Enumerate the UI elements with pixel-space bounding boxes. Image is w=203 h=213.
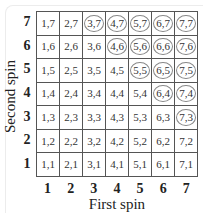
- cell-label: 5,1: [131, 157, 149, 172]
- grid-cell: 5,1: [129, 153, 152, 177]
- grid-cell: 4,1: [106, 153, 129, 177]
- cell-label: 5,5: [130, 62, 150, 79]
- grid-cell: 5,2: [129, 130, 152, 154]
- grid-cell: 6,3: [152, 106, 175, 130]
- grid-cell: 2,4: [60, 83, 83, 107]
- grid-cell: 4,4: [106, 83, 129, 107]
- cell-label: 2,1: [62, 157, 80, 172]
- cell-label: 2,6: [62, 39, 80, 54]
- cell-label: 4,7: [107, 15, 127, 32]
- y-tick-label: 7: [20, 14, 34, 30]
- cell-label: 5,6: [130, 38, 150, 55]
- cell-label: 5,4: [131, 86, 149, 101]
- grid-cell: 1,4: [37, 83, 60, 107]
- cell-label: 3,7: [84, 15, 104, 32]
- cell-label: 1,3: [39, 110, 57, 125]
- grid-cell: 3,6: [83, 36, 106, 60]
- grid-cell: 2,2: [60, 130, 83, 154]
- cell-label: 4,1: [108, 157, 126, 172]
- x-tick-label: 1: [36, 181, 59, 197]
- cell-label: 5,7: [130, 15, 150, 32]
- cell-label: 2,3: [62, 110, 80, 125]
- x-axis-title: First spin: [36, 196, 198, 213]
- cell-label: 1,6: [39, 39, 57, 54]
- y-tick-label: 3: [20, 109, 34, 125]
- grid-cell-circled: 4,7: [106, 12, 129, 36]
- cell-label: 6,1: [154, 157, 172, 172]
- cell-label: 6,2: [154, 134, 172, 149]
- cell-label: 6,7: [153, 15, 173, 32]
- cell-label: 4,5: [108, 63, 126, 78]
- grid-cell: 2,1: [60, 153, 83, 177]
- cell-label: 4,4: [108, 86, 126, 101]
- grid-cell-circled: 6,6: [152, 36, 175, 60]
- grid-cell: 2,3: [60, 106, 83, 130]
- grid-cell: 3,2: [83, 130, 106, 154]
- grid-cell: 2,7: [60, 12, 83, 36]
- grid-cell: 1,3: [37, 106, 60, 130]
- grid-cell: 4,2: [106, 130, 129, 154]
- y-tick-label: 6: [20, 38, 34, 54]
- grid-cell: 3,1: [83, 153, 106, 177]
- grid-cell: 1,2: [37, 130, 60, 154]
- grid-cell: 2,6: [60, 36, 83, 60]
- cell-label: 6,4: [153, 85, 173, 102]
- cell-label: 3,2: [85, 134, 103, 149]
- grid-cell: 1,7: [37, 12, 60, 36]
- grid-cell-circled: 7,4: [175, 83, 198, 107]
- y-tick-label: 1: [20, 156, 34, 172]
- cell-label: 2,5: [62, 63, 80, 78]
- grid-cell: 4,3: [106, 106, 129, 130]
- x-tick-label: 2: [59, 181, 82, 197]
- cell-label: 3,1: [85, 157, 103, 172]
- cell-label: 2,7: [62, 16, 80, 31]
- grid-cell: 6,1: [152, 153, 175, 177]
- grid-cell: 3,5: [83, 59, 106, 83]
- cell-label: 5,3: [131, 110, 149, 125]
- cell-label: 7,6: [176, 38, 196, 55]
- cell-label: 1,4: [39, 86, 57, 101]
- cell-label: 2,4: [62, 86, 80, 101]
- cell-label: 1,2: [39, 134, 57, 149]
- grid-cell: 7,1: [175, 153, 198, 177]
- cell-label: 4,3: [108, 110, 126, 125]
- grid-cell: 6,2: [152, 130, 175, 154]
- grid-cell-circled: 4,6: [106, 36, 129, 60]
- grid-cell: 1,5: [37, 59, 60, 83]
- y-axis-title: Second spin: [2, 42, 19, 152]
- grid-cell: 2,5: [60, 59, 83, 83]
- y-tick-label: 5: [20, 61, 34, 77]
- grid-cell: 3,3: [83, 106, 106, 130]
- x-tick-label: 5: [129, 181, 152, 197]
- y-tick-label: 4: [20, 85, 34, 101]
- cell-label: 4,2: [108, 134, 126, 149]
- cell-label: 1,1: [39, 157, 57, 172]
- grid-cell: 4,5: [106, 59, 129, 83]
- x-tick-label: 6: [152, 181, 175, 197]
- cell-label: 3,3: [85, 110, 103, 125]
- grid-cell: 1,1: [37, 153, 60, 177]
- cell-label: 7,5: [176, 62, 196, 79]
- grid-cell-circled: 7,7: [175, 12, 198, 36]
- grid-cell-circled: 5,7: [129, 12, 152, 36]
- cell-label: 4,6: [107, 38, 127, 55]
- cell-label: 7,2: [177, 134, 195, 149]
- x-tick-label: 4: [105, 181, 128, 197]
- grid-cell-circled: 7,5: [175, 59, 198, 83]
- grid-cell-circled: 7,6: [175, 36, 198, 60]
- cell-label: 2,2: [62, 134, 80, 149]
- grid-cell-circled: 3,7: [83, 12, 106, 36]
- grid-cell-circled: 7,3: [175, 106, 198, 130]
- cell-label: 6,6: [153, 38, 173, 55]
- grid-cell-circled: 6,4: [152, 83, 175, 107]
- x-tick-label: 7: [175, 181, 198, 197]
- cell-label: 1,5: [39, 63, 57, 78]
- grid-cell-circled: 5,5: [129, 59, 152, 83]
- cell-label: 3,6: [85, 39, 103, 54]
- cell-label: 3,4: [85, 86, 103, 101]
- cell-label: 3,5: [85, 63, 103, 78]
- x-tick-label: 3: [82, 181, 105, 197]
- grid-cell: 5,4: [129, 83, 152, 107]
- cell-label: 6,3: [154, 110, 172, 125]
- outcome-grid: 1,72,73,74,75,76,77,71,62,63,64,65,66,67…: [36, 11, 198, 177]
